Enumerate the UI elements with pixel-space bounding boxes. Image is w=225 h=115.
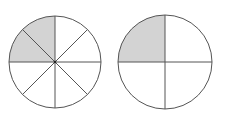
- shaded-region-quarters: [118, 15, 165, 62]
- eighths-circle: [9, 16, 101, 108]
- quarters-circle: [118, 15, 212, 109]
- fraction-circles-figure: [0, 0, 225, 115]
- center-dot: [54, 61, 57, 64]
